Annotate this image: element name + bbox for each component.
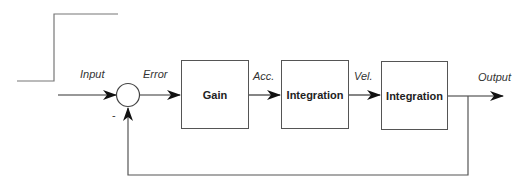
integration-block-2-label: Integration: [386, 90, 443, 102]
acc-label: Acc.: [253, 70, 274, 82]
gain-block-label: Gain: [203, 89, 227, 101]
vel-label: Vel.: [354, 70, 373, 82]
error-label: Error: [143, 68, 167, 80]
gain-block: Gain: [181, 60, 249, 129]
integration-block-1-label: Integration: [287, 89, 344, 101]
diagram-canvas: [0, 0, 530, 188]
minus-sign: -: [112, 109, 116, 121]
step-input-label: Input: [80, 68, 104, 80]
summing-junction: [117, 84, 140, 107]
integration-block-1: Integration: [281, 60, 349, 129]
output-label: Output: [478, 71, 511, 83]
integration-block-2: Integration: [381, 61, 448, 130]
